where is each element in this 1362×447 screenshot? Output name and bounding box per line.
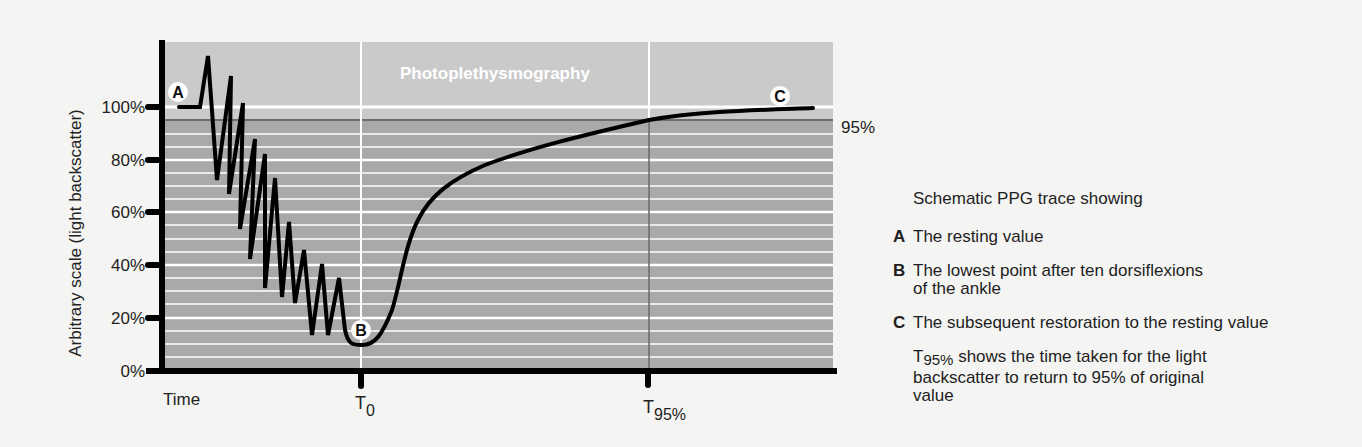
legend-text-a: The resting value: [913, 228, 1313, 246]
svg-text:B: B: [355, 322, 367, 339]
y-tick-100: 100%: [102, 98, 145, 117]
y-tick-60: 60%: [111, 203, 145, 222]
y-axis-label: Arbitrary scale (light backscatter): [66, 109, 85, 357]
legend-note-prefix: T: [913, 347, 923, 366]
legend-key-a: A: [893, 228, 913, 246]
legend-intro: Schematic PPG trace showing: [913, 190, 1313, 208]
y-tick-0: 0%: [120, 362, 145, 381]
ref-label-95: 95%: [841, 118, 875, 137]
t0-label: T0: [355, 393, 375, 419]
legend-text-b: The lowest point after ten dorsiflexions…: [913, 262, 1213, 298]
y-tick-40: 40%: [111, 256, 145, 275]
y-tick-20: 20%: [111, 309, 145, 328]
marker-a: A: [168, 82, 188, 102]
legend-text-c: The subsequent restoration to the restin…: [913, 314, 1313, 332]
legend-key-b: B: [893, 262, 913, 298]
legend-note-text: shows the time taken for the light backs…: [913, 347, 1207, 405]
legend-item-a: A The resting value: [893, 228, 1313, 246]
y-tick-80: 80%: [111, 151, 145, 170]
t95-label: T95%: [643, 397, 686, 423]
svg-text:A: A: [172, 84, 184, 101]
svg-text:C: C: [774, 88, 786, 105]
legend-key-c: C: [893, 314, 913, 332]
marker-b: B: [351, 320, 371, 340]
legend-item-c: C The subsequent restoration to the rest…: [893, 314, 1313, 332]
legend-note: T95% shows the time taken for the light …: [913, 348, 1213, 405]
plot-title: Photoplethysmography: [400, 64, 590, 83]
legend-item-b: B The lowest point after ten dorsiflexio…: [893, 262, 1313, 298]
x-axis-label: Time: [163, 390, 200, 409]
legend: Schematic PPG trace showing A The restin…: [893, 190, 1313, 405]
marker-c: C: [770, 86, 790, 106]
y-tick-labels: 100% 80% 60% 40% 20% 0%: [102, 98, 145, 381]
legend-note-sub: 95%: [923, 351, 953, 368]
